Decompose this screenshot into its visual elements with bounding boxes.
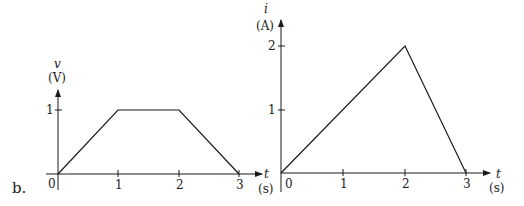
i-xtick-label-3: 3: [463, 177, 471, 191]
i-ylabel: i: [264, 2, 268, 16]
i-yunit: (A): [256, 19, 274, 33]
v-xtick-label-0: 0: [48, 177, 56, 191]
v-xtick-label-1: 1: [115, 178, 123, 192]
i-xunit: (s): [489, 181, 505, 195]
v-xtick-label-3: 3: [236, 178, 244, 192]
v-series-line: [58, 110, 239, 174]
part-label: b.: [12, 179, 26, 197]
current-chart: 0 1 2 3 1 2 i (A) t (s): [256, 2, 505, 195]
v-xlabel: t: [264, 167, 269, 181]
i-xtick-label-1: 1: [340, 177, 348, 191]
chart-canvas: 0 1 2 3 1 v (V) t (s) 0 1 2 3 1 2 i (A) …: [0, 0, 524, 206]
v-ytick-label-1: 1: [46, 103, 54, 117]
v-ylabel: v: [54, 57, 61, 71]
i-series-line: [281, 46, 466, 173]
i-ytick-label-1: 1: [268, 103, 276, 117]
v-xtick-label-2: 2: [176, 178, 184, 192]
i-ytick-label-2: 2: [268, 39, 276, 53]
i-xtick-label-2: 2: [402, 177, 410, 191]
i-xtick-label-0: 0: [285, 177, 293, 191]
voltage-chart: 0 1 2 3 1 v (V) t (s): [46, 57, 274, 196]
v-xunit: (s): [258, 182, 274, 196]
v-yunit: (V): [48, 71, 66, 85]
i-xlabel: t: [496, 167, 501, 181]
